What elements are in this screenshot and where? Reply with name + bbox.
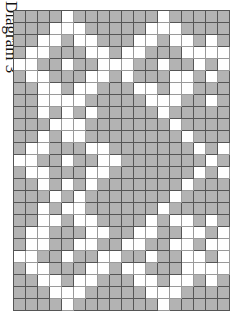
grid-cell [170, 71, 182, 83]
grid-cell [26, 35, 38, 47]
grid-cell [86, 239, 98, 251]
grid-cell [218, 35, 230, 47]
grid-cell [134, 215, 146, 227]
grid-cell [170, 287, 182, 299]
grid-cell [218, 179, 230, 191]
grid-cell [62, 239, 74, 251]
grid-cell [110, 59, 122, 71]
grid-cell [134, 23, 146, 35]
grid-cell [170, 275, 182, 287]
grid-cell [110, 131, 122, 143]
grid-cell [182, 203, 194, 215]
grid-cell [110, 107, 122, 119]
grid-cell [74, 95, 86, 107]
grid-cell [206, 107, 218, 119]
grid-cell [14, 47, 26, 59]
grid-cell [194, 239, 206, 251]
grid-cell [158, 131, 170, 143]
grid-cell [74, 119, 86, 131]
grid-cell [146, 251, 158, 263]
grid-cell [26, 47, 38, 59]
grid-cell [122, 23, 134, 35]
grid-cell [26, 59, 38, 71]
grid-cell [86, 83, 98, 95]
grid-cell [122, 83, 134, 95]
grid-cell [194, 131, 206, 143]
grid-cell [38, 143, 50, 155]
grid-cell [86, 59, 98, 71]
grid-cell [74, 167, 86, 179]
grid-cell [98, 299, 110, 311]
grid-cell [158, 167, 170, 179]
grid-cell [14, 119, 26, 131]
grid-cell [194, 23, 206, 35]
grid-cell [134, 95, 146, 107]
grid-cell [14, 179, 26, 191]
grid-cell [50, 287, 62, 299]
grid-cell [74, 275, 86, 287]
grid-cell [14, 251, 26, 263]
grid-cell [122, 95, 134, 107]
grid-cell [110, 119, 122, 131]
grid-cell [206, 11, 218, 23]
grid-cell [134, 47, 146, 59]
grid-cell [194, 215, 206, 227]
grid-cell [194, 203, 206, 215]
grid-cell [194, 191, 206, 203]
grid-cell [86, 131, 98, 143]
grid-cell [134, 287, 146, 299]
grid-cell [110, 299, 122, 311]
grid-cell [218, 203, 230, 215]
grid-cell [146, 143, 158, 155]
grid-cell [146, 47, 158, 59]
grid-cell [98, 287, 110, 299]
grid-cell [74, 35, 86, 47]
grid-cell [134, 251, 146, 263]
grid-cell [86, 203, 98, 215]
grid-cell [38, 275, 50, 287]
grid-cell [146, 119, 158, 131]
grid-cell [38, 71, 50, 83]
grid-cell [218, 287, 230, 299]
grid-cell [158, 179, 170, 191]
grid-cell [122, 167, 134, 179]
grid-cell [50, 215, 62, 227]
grid-cell [62, 107, 74, 119]
grid-cell [122, 59, 134, 71]
grid-cell [74, 71, 86, 83]
grid-cell [62, 227, 74, 239]
grid-cell [110, 263, 122, 275]
grid-cell [50, 35, 62, 47]
grid-cell [122, 263, 134, 275]
grid-cell [182, 299, 194, 311]
grid-cell [26, 179, 38, 191]
grid-cell [170, 239, 182, 251]
grid-cell [146, 83, 158, 95]
grid-cell [26, 11, 38, 23]
grid-cell [182, 179, 194, 191]
grid-cell [26, 263, 38, 275]
grid-cell [14, 59, 26, 71]
grid-cell [38, 191, 50, 203]
grid-cell [182, 275, 194, 287]
grid-cell [62, 275, 74, 287]
grid-cell [194, 227, 206, 239]
grid-cell [218, 131, 230, 143]
grid-cell [98, 215, 110, 227]
grid-cell [98, 167, 110, 179]
grid-cell [194, 47, 206, 59]
grid-cell [14, 227, 26, 239]
grid-cell [26, 287, 38, 299]
grid-cell [146, 227, 158, 239]
grid-cell [74, 11, 86, 23]
grid-cell [98, 131, 110, 143]
grid-cell [74, 299, 86, 311]
grid-cell [134, 179, 146, 191]
grid-cell [122, 179, 134, 191]
grid-cell [146, 215, 158, 227]
grid-cell [182, 239, 194, 251]
grid-cell [26, 131, 38, 143]
grid-cell [98, 107, 110, 119]
grid-cell [218, 95, 230, 107]
grid-cell [146, 287, 158, 299]
